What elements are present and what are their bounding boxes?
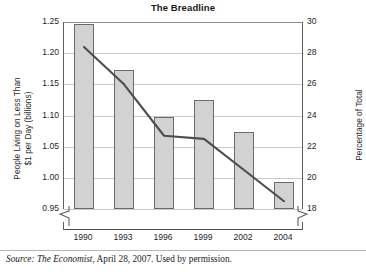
left-axis-tick: 1.25 [42,16,59,26]
plot-area [63,22,303,209]
right-axis-tick: 28 [307,47,317,57]
left-axis-tick: 1.05 [42,141,59,151]
x-axis-tick: 1996 [143,232,183,242]
source-publication: The Economist [37,254,93,264]
left-axis-tick-labels: 1.251.201.151.101.051.000.95 [27,0,59,272]
x-axis-tick: 1990 [63,232,103,242]
right-axis-tick: 26 [307,78,317,88]
source-rest: , April 28, 2007. Used by permission. [92,254,231,264]
right-axis-break-icon [295,206,311,226]
x-axis-tick: 1999 [183,232,223,242]
x-axis-line [63,229,303,230]
left-axis-title-line1: People Living on Less Than [12,77,22,179]
right-axis-tick: 20 [307,172,317,182]
right-axis-title: Percentage of Total [354,40,364,210]
left-axis-tick: 1.10 [42,110,59,120]
right-axis-tick: 30 [307,16,317,26]
right-axis-tick-labels: 30282624222018 [307,0,339,272]
x-axis-tick-labels: 199019931996199920022004 [63,232,303,248]
x-axis-tick: 2004 [263,232,303,242]
x-axis-tick: 2002 [223,232,263,242]
percentage-trend-line [84,47,284,201]
source-divider [0,250,366,251]
chart-figure: The Breadline People Living on Less Than… [0,0,366,272]
left-axis-break-icon [56,206,72,226]
left-axis-tick: 1.15 [42,78,59,88]
left-axis-tick: 1.20 [42,47,59,57]
left-axis-tick: 1.00 [42,172,59,182]
right-axis-tick: 24 [307,110,317,120]
right-axis-tick: 22 [307,141,317,151]
line-series [64,22,304,209]
x-axis-tick: 1993 [103,232,143,242]
source-note: Source: The Economist, April 28, 2007. U… [6,254,232,264]
gridline [64,209,302,210]
source-prefix: Source: [6,254,35,264]
